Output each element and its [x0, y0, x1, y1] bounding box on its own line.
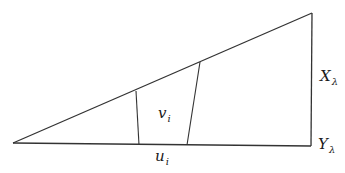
label-u-base: u	[155, 147, 165, 165]
label-x-lambda: Xλ	[320, 69, 338, 87]
label-u-i: ui	[155, 149, 169, 167]
inner-segment-left	[136, 91, 139, 145]
label-v-i: vi	[158, 106, 171, 124]
label-y-lambda: Yλ	[318, 137, 335, 155]
label-x-base: X	[320, 67, 331, 85]
label-x-sub: λ	[332, 76, 338, 87]
label-v-sub: i	[167, 113, 170, 124]
label-y-sub: λ	[329, 144, 335, 155]
inner-segment-right	[187, 62, 200, 145]
base-line	[13, 143, 311, 146]
triangle-diagram	[0, 0, 345, 173]
label-y-base: Y	[318, 135, 328, 153]
right-side-line	[311, 13, 312, 146]
label-v-base: v	[158, 104, 166, 122]
label-u-sub: i	[166, 156, 169, 167]
